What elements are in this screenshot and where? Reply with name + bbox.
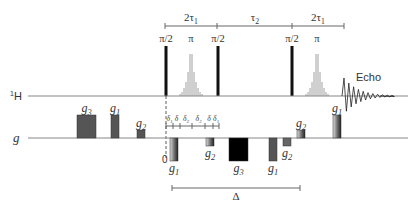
delta-label: δ₁ bbox=[166, 114, 172, 123]
gradient-label: g2 bbox=[205, 146, 215, 162]
gradient-label: g1 bbox=[169, 161, 179, 177]
gradient-pulse bbox=[333, 115, 341, 138]
delta-label: δ₁ bbox=[213, 114, 219, 123]
pulse-label: π/2 bbox=[159, 33, 172, 44]
hard-pulse bbox=[165, 46, 168, 96]
gradient-pulse bbox=[283, 138, 291, 146]
hard-pulse bbox=[291, 46, 294, 96]
interval-label: τ2 bbox=[251, 11, 259, 26]
selective-pulse bbox=[180, 54, 202, 96]
gradient-pulse bbox=[269, 138, 277, 161]
pulse-label: π bbox=[314, 33, 320, 44]
gradient-label: g3 bbox=[81, 101, 91, 117]
pulse-label: π/2 bbox=[211, 33, 224, 44]
delta-label: δ bbox=[175, 114, 179, 123]
zero-label: 0 bbox=[162, 154, 168, 165]
echo-label: Echo bbox=[356, 71, 381, 83]
delta-label: δ bbox=[207, 114, 211, 123]
gradient-label: g2 bbox=[296, 116, 306, 132]
gradient-label: g2 bbox=[282, 146, 292, 162]
gradient-pulse bbox=[206, 138, 214, 146]
gradient-pulse bbox=[229, 138, 248, 161]
pulse-label: π/2 bbox=[285, 33, 298, 44]
delta-label: δ₂ bbox=[195, 114, 201, 123]
pulse-sequence-diagram: 2τ1τ22τ1 π/2ππ/2π/2π 1H Echo 0 g g3g1g2g… bbox=[0, 0, 418, 209]
gradient-pulses: g3g1g2g1g2g3g1g2g2g1 bbox=[77, 101, 342, 177]
interval-label: 2τ1 bbox=[184, 11, 198, 26]
selective-pulse bbox=[306, 54, 328, 96]
pulse-label: π bbox=[188, 33, 194, 44]
gradient-channel-label: g bbox=[13, 130, 20, 145]
proton-label: 1H bbox=[10, 90, 22, 102]
interval-label: 2τ1 bbox=[311, 11, 325, 26]
gradient-label: g1 bbox=[332, 101, 342, 117]
timing-ruler-top: 2τ1τ22τ1 bbox=[165, 11, 344, 29]
gradient-label: g1 bbox=[268, 161, 278, 177]
gradient-pulse bbox=[111, 115, 119, 138]
delta-label: δ₂ bbox=[183, 114, 189, 123]
echo-signal: Echo bbox=[342, 71, 394, 111]
rf-pulses: π/2ππ/2π/2π bbox=[159, 33, 328, 96]
hard-pulse bbox=[217, 46, 220, 96]
gradient-label: g2 bbox=[136, 116, 146, 132]
gradient-label: g1 bbox=[110, 101, 120, 117]
big-delta-ruler: Δ bbox=[172, 185, 300, 202]
gradient-pulse bbox=[77, 115, 96, 138]
gradient-pulse bbox=[170, 138, 178, 161]
gradient-label: g3 bbox=[233, 161, 243, 177]
big-delta-label: Δ bbox=[232, 190, 239, 202]
delta-ruler: δ₁δδ₂δ₂δδ₁ bbox=[166, 114, 219, 129]
